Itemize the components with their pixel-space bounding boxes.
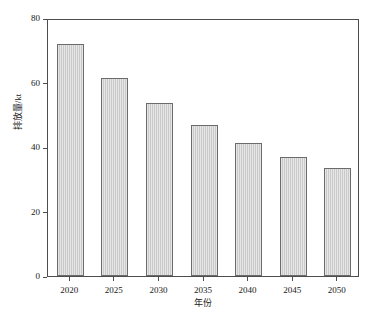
x-axis-title: 年份 [47, 297, 359, 310]
x-tick-label: 2040 [228, 284, 268, 296]
y-axis-title: 排放量/kt [11, 77, 25, 147]
y-tick-mark [43, 212, 47, 213]
bar-2050 [324, 168, 351, 276]
x-tick-label: 2050 [317, 284, 357, 296]
x-tick-label: 2025 [94, 284, 134, 296]
x-tick-mark [69, 277, 70, 281]
x-tick-mark [203, 277, 204, 281]
y-tick-mark [43, 83, 47, 84]
x-tick-label: 2020 [49, 284, 89, 296]
x-tick-mark [158, 277, 159, 281]
y-tick-label: 20 [31, 206, 40, 219]
x-tick-label: 2045 [272, 284, 312, 296]
y-tick-label: 40 [31, 141, 40, 154]
bar-2045 [280, 157, 307, 276]
bar-2035 [191, 125, 218, 276]
x-tick-mark [113, 277, 114, 281]
bars-layer [48, 20, 358, 276]
bar-2020 [57, 44, 84, 276]
y-tick-label: 60 [31, 77, 40, 90]
x-tick-mark [336, 277, 337, 281]
y-tick-label: 0 [36, 270, 41, 283]
x-tick-label: 2030 [138, 284, 178, 296]
bar-2040 [235, 143, 262, 276]
x-tick-label: 2035 [183, 284, 223, 296]
bar-2030 [146, 103, 173, 276]
plot-area [47, 19, 359, 277]
bar-2025 [101, 78, 128, 276]
x-tick-mark [247, 277, 248, 281]
y-tick-label: 80 [31, 12, 40, 25]
y-tick-mark [43, 148, 47, 149]
x-tick-mark [292, 277, 293, 281]
y-tick-mark [43, 277, 47, 278]
y-tick-mark [43, 19, 47, 20]
bar-chart-figure: 排放量/kt 020406080 20202025203020352040204… [0, 0, 373, 319]
